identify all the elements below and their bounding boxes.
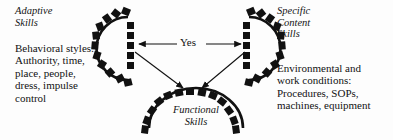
adaptive-skills-body: Behavioral styles: Authority, time, plac…: [15, 42, 94, 104]
yes-connector-label: Yes: [180, 36, 196, 48]
specific-content-skills-body: Environmental and work conditions: Proce…: [277, 62, 370, 112]
gear-adaptive-skills: [91, 7, 134, 87]
connector-adaptive-to-functional: [135, 52, 183, 88]
adaptive-skills-heading: Adaptive Skills: [15, 5, 52, 28]
functional-skills-label: Functional Skills: [150, 104, 242, 128]
diagram-canvas: Adaptive Skills Behavioral styles: Autho…: [0, 0, 393, 140]
specific-content-skills-heading: Specific Content Skills: [277, 5, 310, 40]
connector-specific-to-functional: [202, 52, 245, 88]
